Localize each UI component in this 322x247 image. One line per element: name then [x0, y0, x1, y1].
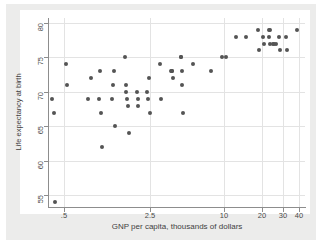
scatter-point — [136, 104, 140, 108]
y-tick-label: 60 — [37, 161, 45, 202]
gridline-vertical — [64, 18, 65, 207]
scatter-point — [159, 97, 163, 101]
scatter-point — [52, 111, 56, 115]
gridline-vertical — [283, 18, 284, 207]
scatter-point — [244, 35, 248, 39]
x-tick-label: 40 — [284, 211, 314, 220]
scatter-point — [262, 42, 266, 46]
x-tick-label: 2.5 — [135, 211, 165, 220]
scatter-point — [180, 69, 184, 73]
scatter-point — [209, 69, 213, 73]
scatter-point — [267, 35, 271, 39]
scatter-point — [224, 55, 228, 59]
scatter-point — [145, 90, 149, 94]
x-tick-label: 10 — [209, 211, 239, 220]
gridline-horizontal — [48, 23, 305, 24]
y-axis-title: Life expectancy at birth — [14, 73, 23, 150]
gridline-horizontal — [48, 92, 305, 93]
scatter-point — [136, 97, 140, 101]
gridline-horizontal — [48, 161, 305, 162]
gridline-vertical — [299, 18, 300, 207]
gridline-horizontal — [48, 195, 305, 196]
scatter-plot-figure: 556065707580.52.510203040 Life expectanc… — [0, 0, 322, 247]
scatter-point — [125, 97, 129, 101]
y-axis-line — [48, 18, 49, 208]
scatter-point — [146, 97, 150, 101]
scatter-point — [50, 97, 54, 101]
x-tick-label: .5 — [49, 211, 79, 220]
x-axis-line — [48, 207, 306, 208]
y-tick-label: 70 — [37, 92, 45, 133]
gridline-horizontal — [48, 126, 305, 127]
scatter-point — [277, 35, 281, 39]
scatter-point — [126, 104, 130, 108]
scatter-point — [268, 28, 272, 32]
scatter-point — [295, 28, 299, 32]
scatter-point — [86, 97, 90, 101]
y-tick-label: 80 — [37, 23, 45, 64]
scatter-point — [171, 76, 175, 80]
x-axis-title: GNP per capita, thousands of dollars — [48, 222, 306, 231]
scatter-point — [124, 83, 128, 87]
scatter-point — [89, 76, 93, 80]
scatter-point — [261, 35, 265, 39]
gridline-horizontal — [48, 57, 305, 58]
gridline-vertical — [224, 18, 225, 207]
scatter-point — [148, 111, 152, 115]
scatter-point — [284, 35, 288, 39]
scatter-point — [99, 111, 103, 115]
scatter-point — [181, 111, 185, 115]
scatter-point — [97, 97, 101, 101]
gridline-vertical — [262, 18, 263, 207]
scatter-point — [135, 90, 139, 94]
scatter-point — [274, 42, 278, 46]
scatter-point — [53, 200, 57, 204]
scatter-point — [110, 97, 114, 101]
